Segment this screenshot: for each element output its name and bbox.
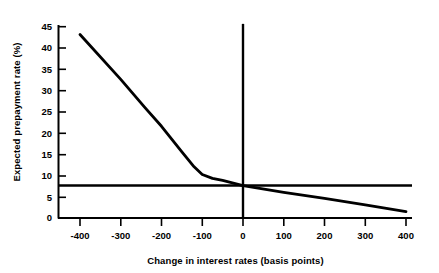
ytick-label-40: 40 [26, 42, 52, 53]
ytick-label-0: 0 [26, 212, 52, 223]
ytick-label-5: 5 [26, 192, 52, 203]
xtick-label-100: 100 [264, 230, 304, 241]
ytick-label-10: 10 [26, 170, 52, 181]
ytick-label-20: 20 [26, 128, 52, 139]
y-axis-title-wrapper: Expected prepayment rate (%) [6, 12, 22, 212]
xtick-label-minus200: -200 [142, 230, 182, 241]
xtick-label-0: 0 [223, 230, 263, 241]
xtick-label-200: 200 [305, 230, 345, 241]
ytick-label-15: 15 [26, 149, 52, 160]
ytick-label-30: 30 [26, 85, 52, 96]
xtick-label-300: 300 [345, 230, 385, 241]
xtick-label-minus400: -400 [60, 230, 100, 241]
xtick-label-minus300: -300 [101, 230, 141, 241]
x-axis-title-wrapper: Change in interest rates (basis points) [58, 250, 413, 268]
ytick-label-35: 35 [26, 64, 52, 75]
ytick-label-25: 25 [26, 106, 52, 117]
y-axis-title: Expected prepayment rate (%) [11, 43, 22, 182]
x-axis-title: Change in interest rates (basis points) [147, 255, 324, 266]
xtick-label-minus100: -100 [182, 230, 222, 241]
xtick-label-400: 400 [386, 230, 426, 241]
ytick-label-45: 45 [26, 21, 52, 32]
prepayment-rate-chart: 45 40 35 30 25 20 15 10 5 0 -400 -300 -2… [0, 0, 439, 273]
